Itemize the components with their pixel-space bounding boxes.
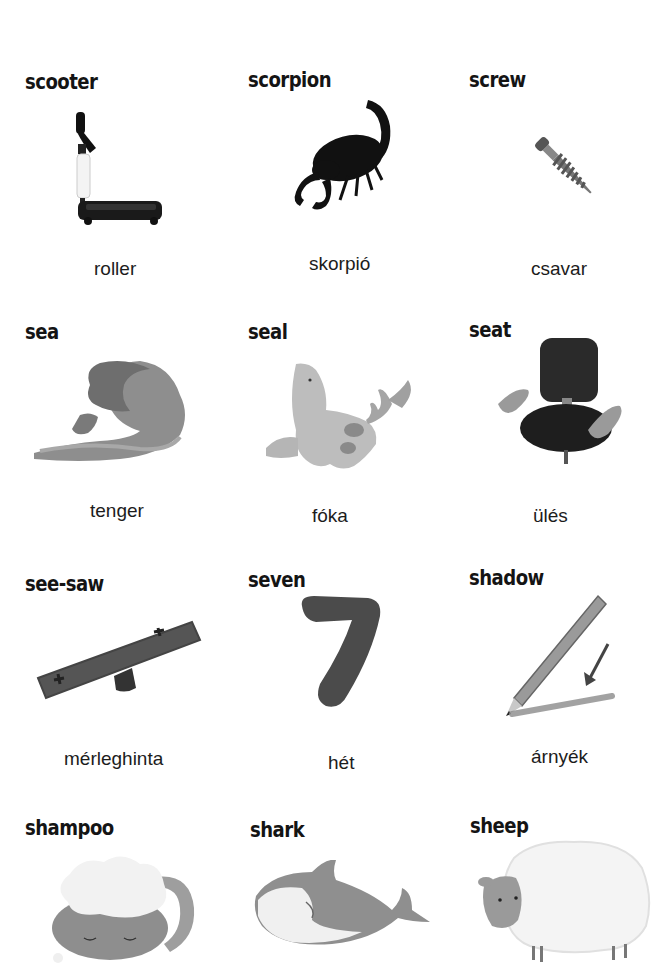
english-word: shadow bbox=[469, 566, 544, 590]
english-word: seven bbox=[248, 568, 305, 592]
hungarian-translation: fóka bbox=[312, 505, 348, 527]
english-word: scorpion bbox=[248, 68, 331, 92]
hungarian-translation: tenger bbox=[90, 500, 144, 522]
scooter-icon bbox=[66, 108, 166, 228]
chair-icon bbox=[492, 334, 632, 469]
shark-icon bbox=[252, 860, 437, 950]
english-word: screw bbox=[469, 68, 526, 92]
pencil-shadow-icon bbox=[500, 594, 620, 724]
hungarian-translation: hét bbox=[328, 752, 354, 774]
sheep-icon bbox=[474, 838, 654, 966]
hungarian-translation: árnyék bbox=[531, 746, 588, 768]
english-word: seal bbox=[248, 320, 287, 344]
english-word: sheep bbox=[470, 814, 528, 838]
english-word: shampoo bbox=[25, 816, 114, 840]
hungarian-translation: csavar bbox=[531, 258, 587, 280]
english-word: sea bbox=[25, 320, 59, 344]
dictionary-page: scooter roller scorpion bbox=[0, 0, 671, 966]
wave-icon bbox=[30, 355, 205, 465]
english-word: scooter bbox=[25, 70, 97, 94]
seesaw-icon bbox=[34, 618, 204, 708]
screw-icon bbox=[524, 126, 604, 206]
hungarian-translation: roller bbox=[94, 258, 136, 280]
scorpion-icon bbox=[278, 96, 398, 226]
english-word: shark bbox=[250, 818, 304, 842]
hungarian-translation: ülés bbox=[533, 505, 568, 527]
seal-icon bbox=[258, 360, 423, 475]
hungarian-translation: skorpió bbox=[309, 253, 370, 275]
shampoo-cat-icon bbox=[40, 848, 200, 966]
english-word: see-saw bbox=[25, 572, 104, 596]
number-seven-icon bbox=[296, 594, 386, 714]
hungarian-translation: mérleghinta bbox=[64, 748, 163, 770]
